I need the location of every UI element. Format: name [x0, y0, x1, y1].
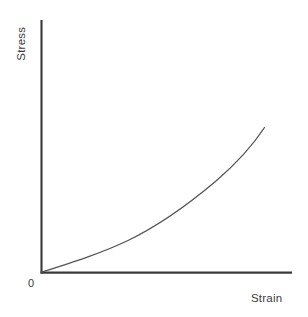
- x-axis-label: Strain: [251, 292, 282, 304]
- y-axis-label: Stress: [16, 22, 28, 66]
- stress-strain-figure: Stress Strain 0: [0, 0, 308, 317]
- y-axis-label-text: Stress: [16, 22, 28, 66]
- stress-strain-curve: [42, 128, 265, 273]
- origin-tick-label: 0: [28, 277, 34, 289]
- plot-canvas: [0, 0, 308, 317]
